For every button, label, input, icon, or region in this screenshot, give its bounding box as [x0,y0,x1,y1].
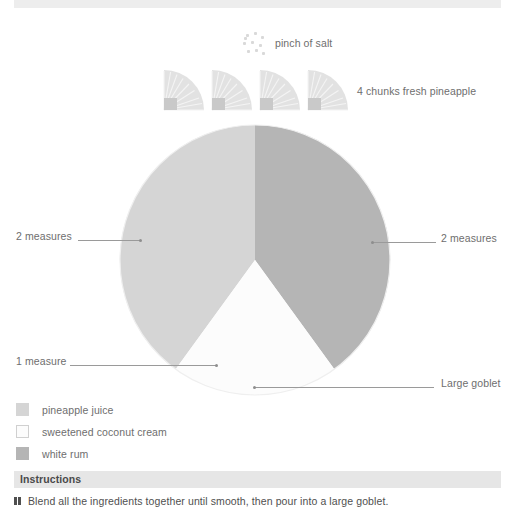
callout-right-bottom: Large goblet [441,377,501,389]
legend-label: white rum [42,448,88,460]
salt-grains-icon [243,32,271,58]
callout-right-top: 2 measures [441,232,497,244]
callout-left-bottom: 1 measure [16,355,67,367]
chart-legend: pineapple juice sweetened coconut cream … [16,400,266,466]
leader-dot-left-top [139,239,142,242]
leader-dot-left-bottom [215,364,218,367]
pineapple-wedge-icon [306,68,350,112]
legend-swatch-icon [16,403,29,416]
instructions-band [14,471,501,488]
callout-left-top: 2 measures [16,230,72,242]
pineapple-wedge-icon [258,68,302,112]
legend-label: pineapple juice [42,404,114,416]
pie-chart [118,123,392,397]
pineapple-wedge-icon [162,68,206,112]
legend-item-pineapple-juice: pineapple juice [16,400,266,419]
ingredient-pineapple-label: 4 chunks fresh pineapple [357,85,476,97]
leader-line-right-bottom [254,387,434,388]
leader-line-left-top [78,240,140,241]
leader-line-left-bottom [70,365,217,366]
legend-item-white-rum: white rum [16,444,266,463]
legend-swatch-icon [16,425,29,438]
ingredient-salt: pinch of salt [243,32,503,60]
leader-dot-right-bottom [253,386,256,389]
top-divider-band [14,0,501,8]
leader-dot-right-top [371,241,374,244]
instruction-step: Blend all the ingredients together until… [14,495,388,507]
instructions-heading: Instructions [20,473,81,485]
legend-label: sweetened coconut cream [42,426,167,438]
pineapple-wedge-icon [210,68,254,112]
ingredient-pineapple: 4 chunks fresh pineapple [162,68,507,114]
ingredient-salt-label: pinch of salt [275,37,332,49]
leader-line-right-top [372,242,436,243]
legend-item-coconut-cream: sweetened coconut cream [16,422,266,441]
legend-swatch-icon [16,447,29,460]
instruction-step-text: Blend all the ingredients together until… [28,495,388,507]
list-bullet-icon [14,497,21,505]
